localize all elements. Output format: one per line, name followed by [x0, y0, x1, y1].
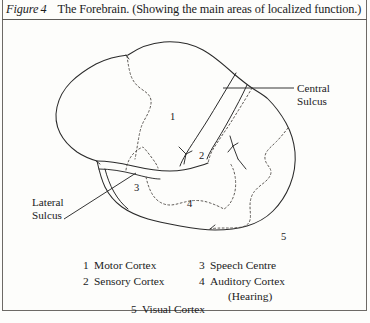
- cortex-outline-path: [56, 42, 295, 230]
- figure-caption: Figure4The Forebrain. (Showing the main …: [6, 1, 366, 18]
- legend-item-2: 2Sensory Cortex: [83, 274, 165, 290]
- callout-central-sulcus: Central Sulcus: [297, 82, 330, 108]
- legend-item-3-label: Speech Centre: [210, 259, 276, 271]
- legend-item-1: 1Motor Cortex: [83, 258, 165, 274]
- lateral-sulcus-leader-line: [64, 173, 136, 219]
- region-number-1: 1: [170, 111, 175, 122]
- frontal-lobe-dotted-boundary: [127, 56, 151, 159]
- figure-caption-text: The Forebrain. (Showing the main areas o…: [57, 2, 361, 16]
- region-number-5: 5: [281, 231, 286, 242]
- sulcus-branch-right: [228, 136, 246, 169]
- legend-auditory-subnote: (Hearing): [228, 289, 272, 305]
- callout-lateral-sulcus-line1: Lateral: [32, 196, 64, 209]
- sulcus-branch-left: [179, 147, 192, 164]
- legend-item-5-label: Visual Cortex: [142, 303, 205, 315]
- legend-item-5-number: 5: [131, 302, 142, 318]
- figure-label-word: Figure: [6, 2, 38, 16]
- legend-item-3-number: 3: [199, 258, 210, 274]
- region-number-4: 4: [187, 198, 192, 209]
- speech-centre-dotted-outline: [126, 147, 158, 170]
- region-number-2: 2: [199, 150, 204, 161]
- legend-item-2-label: Sensory Cortex: [94, 275, 165, 287]
- visual-cortex-dotted-boundary: [210, 128, 288, 229]
- callout-central-sulcus-line1: Central: [297, 82, 330, 95]
- callout-central-sulcus-line2: Sulcus: [297, 95, 330, 108]
- legend-item-4: 4Auditory Cortex: [199, 274, 285, 290]
- legend-item-1-label: Motor Cortex: [94, 259, 156, 271]
- legend-item-4-label: Auditory Cortex: [210, 275, 285, 287]
- forebrain-diagram: 1 2 3 4 5: [0, 19, 370, 264]
- lateral-sulcus-fissure: [97, 161, 208, 171]
- callout-lateral-sulcus: Lateral Sulcus: [32, 196, 64, 222]
- legend-column-right: 3Speech Centre 4Auditory Cortex: [199, 258, 285, 289]
- sensory-cortex-dotted-band: [208, 88, 252, 163]
- legend-item-3: 3Speech Centre: [199, 258, 285, 274]
- legend-item-5: 5Visual Cortex: [131, 302, 205, 318]
- forebrain-illustration-svg: [0, 19, 370, 264]
- precentral-gyrus-line: [207, 85, 247, 159]
- legend-column-left: 1Motor Cortex 2Sensory Cortex: [83, 258, 165, 289]
- outline-notch-marks: [96, 55, 215, 229]
- figure-legend: 1Motor Cortex 2Sensory Cortex 3Speech Ce…: [0, 258, 370, 310]
- region-number-3: 3: [134, 182, 139, 193]
- callout-lateral-sulcus-line2: Sulcus: [32, 209, 64, 222]
- legend-item-2-number: 2: [83, 274, 94, 290]
- figure-number: 4: [40, 2, 46, 16]
- legend-item-4-number: 4: [199, 274, 210, 290]
- figure-page: Figure4The Forebrain. (Showing the main …: [0, 0, 370, 323]
- legend-item-1-number: 1: [83, 258, 94, 274]
